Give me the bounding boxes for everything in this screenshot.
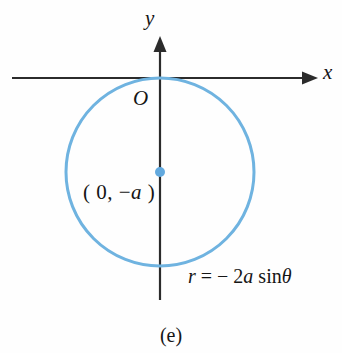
curve-equation-label: r = − 2a sinθ [188,266,292,286]
graph-canvas [0,0,342,353]
y-axis-label: y [145,8,154,29]
y-axis-arrow-icon [154,36,167,52]
center-coordinate-label: ( 0, −a ) [83,182,155,203]
center-point-dot [155,167,165,177]
coordinate-a-value: a [131,180,142,204]
figure-caption: (e) [0,325,342,345]
x-axis-label: x [323,62,332,83]
equation-a-symbol: a [243,265,253,287]
equation-theta-symbol: θ [282,265,292,287]
coordinate-x-value: 0, [96,180,113,204]
origin-label: O [133,88,148,109]
equation-coefficient: − 2 [217,265,243,287]
equation-sin-function: sin [258,265,281,287]
equation-r-symbol: r [188,265,196,287]
coordinate-open-paren: ( [83,180,91,204]
coordinate-minus-sign: − [119,180,131,204]
coordinate-close-paren: ) [148,180,156,204]
x-axis-arrow-icon [302,72,318,85]
equation-equals-sign: = [201,265,212,287]
polar-graph-figure: y x O ( 0, −a ) r = − 2a sinθ (e) [0,0,342,353]
